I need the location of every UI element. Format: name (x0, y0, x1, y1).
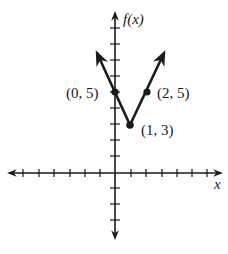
point-1-3-vertex (126, 121, 134, 129)
point-label-1-3: (1, 3) (141, 122, 174, 139)
point-label-0-5: (0, 5) (66, 85, 99, 102)
point-0-5 (111, 88, 118, 95)
y-axis-label: f(x) (123, 11, 144, 28)
point-2-5 (143, 88, 150, 95)
x-axis-label: x (213, 176, 221, 192)
point-label-2-5: (2, 5) (157, 85, 190, 102)
graph-canvas: f(x) x (0, 5) (2, 5) (1, 3) (0, 0, 228, 254)
